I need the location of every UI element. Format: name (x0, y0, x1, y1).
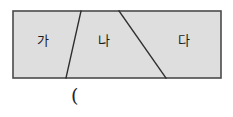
figure-canvas (0, 0, 233, 117)
answer-blank-parenthesis: ( (71, 86, 78, 105)
region-label-na: 나 (98, 34, 110, 47)
region-label-ga: 가 (37, 34, 49, 47)
region-label-da: 다 (178, 34, 190, 47)
geometry-figure: 가 나 다 ( (0, 0, 233, 117)
